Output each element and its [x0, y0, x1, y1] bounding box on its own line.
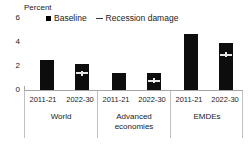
bar-advanced-economies-2011-21 — [112, 73, 126, 90]
y-tick-label-6: 6 — [16, 14, 20, 22]
y-tick-label-2: 2 — [16, 62, 20, 70]
y-axis: 6 4 2 0 — [0, 0, 24, 104]
marker-cross-advanced-economies-2022-30 — [153, 78, 155, 83]
period-label-world-2011-21: 2011-21 — [25, 95, 61, 104]
group-label-advanced-economies-line2: economies — [98, 122, 170, 132]
bar-emdes-2022-30 — [219, 43, 233, 90]
group-label-emdes: EMDEs — [171, 112, 243, 122]
category-axis-band: 2011-21 2022-30 2011-21 2022-30 2011-21 … — [24, 91, 243, 150]
period-label-world-2022-30: 2022-30 — [62, 95, 98, 104]
bar-world-2011-21 — [40, 60, 54, 90]
bar-world-2022-30 — [75, 64, 89, 90]
bar-emdes-2011-21 — [184, 34, 198, 90]
period-label-advanced-economies-2011-21: 2011-21 — [98, 95, 134, 104]
marker-cross-world-2022-30 — [81, 71, 83, 76]
period-label-emdes-2022-30: 2022-30 — [207, 95, 243, 104]
y-tick-label-0: 0 — [16, 86, 20, 94]
bar-advanced-economies-2022-30 — [147, 73, 161, 90]
y-axis-unit-label: Percent — [24, 3, 52, 12]
plot-area — [24, 14, 243, 90]
group-label-advanced-economies-line1: Advanced — [98, 112, 170, 122]
marker-cross-emdes-2022-30 — [225, 52, 227, 57]
y-tick-label-4: 4 — [16, 38, 20, 46]
group-label-world: World — [25, 112, 97, 122]
period-label-advanced-economies-2022-30: 2022-30 — [134, 95, 170, 104]
recession-damage-bar-chart: Percent Baseline Recession damage 6 4 2 … — [0, 0, 249, 150]
period-label-emdes-2011-21: 2011-21 — [171, 95, 207, 104]
